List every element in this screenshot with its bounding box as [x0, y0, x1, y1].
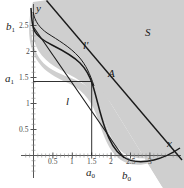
y-tick-label-0: 0.5: [19, 126, 28, 134]
a0-subscript: 0: [92, 172, 96, 180]
y-axis-label: y: [36, 3, 41, 14]
line-l-label: l: [66, 96, 69, 107]
x-tick-label-0: 0.5: [48, 158, 57, 166]
x-tick-label-4: 2.5: [126, 158, 135, 166]
x-tick-label-1: 1: [70, 158, 74, 166]
b0-subscript: 0: [128, 175, 132, 183]
region-S-halfplane: [47, 0, 184, 188]
a0-label: a0: [86, 167, 95, 180]
x-axis-label: x: [167, 138, 172, 149]
a1-subscript: 1: [11, 78, 15, 86]
x-tick-label-2: 1.5: [87, 158, 96, 166]
region-S-label: S: [145, 27, 151, 38]
y-tick-label-3: 2: [26, 48, 30, 56]
b0-label: b0: [122, 170, 131, 183]
figure-container: 0.5 1 1.5 2 2.5 3 0.5 1 1.5 2 2.5 b1 a1 …: [0, 0, 184, 188]
y-tick-label-2: 1.5: [19, 74, 28, 82]
x-tick-label-5: 3: [148, 158, 152, 166]
b1-label: b1: [6, 21, 15, 34]
b1-subscript: 1: [12, 26, 16, 34]
a1-label: a1: [5, 73, 14, 86]
curve-l-prime-label: l′: [83, 40, 88, 51]
y-tick-label-4: 2.5: [19, 22, 28, 30]
point-A-label: A: [108, 68, 115, 79]
x-tick-label-3: 2: [109, 158, 113, 166]
y-tick-label-1: 1: [26, 100, 30, 108]
